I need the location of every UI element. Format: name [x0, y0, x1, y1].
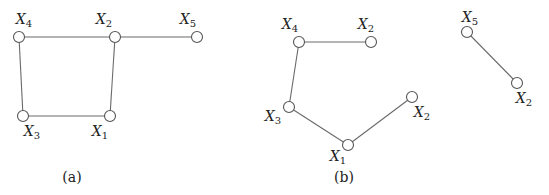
nodes-layer	[14, 27, 523, 151]
edge-b-x3-b-x1	[289, 107, 348, 145]
edge-a-x1-a-x2	[110, 37, 115, 116]
label-b-x4: X4	[281, 16, 298, 34]
node-b-x4	[294, 37, 305, 48]
node-a-x3	[18, 111, 29, 122]
node-b-x2b	[407, 92, 418, 103]
label-b-x2b: X2	[413, 104, 430, 122]
node-a-x2	[110, 32, 121, 43]
edge-b-x4-b-x3	[289, 42, 299, 107]
node-a-x1	[105, 111, 116, 122]
node-b-x2c	[512, 78, 523, 89]
label-b-x1: X1	[329, 148, 346, 166]
label-a-x3: X3	[23, 123, 40, 141]
graph-figure: X4X2X5X3X1X4X2X3X1X2X5X2 (a) (b)	[0, 0, 549, 195]
label-b-x5: X5	[461, 9, 478, 27]
label-a-x5: X5	[179, 11, 196, 29]
node-b-x2a	[366, 37, 377, 48]
edge-b-x5-b-x2c	[467, 32, 517, 83]
label-b-x2a: X2	[357, 16, 374, 34]
label-a-x1: X1	[91, 123, 108, 141]
label-a-x4: X4	[15, 11, 32, 29]
node-a-x4	[14, 32, 25, 43]
node-b-x5	[462, 27, 473, 38]
caption-a: (a)	[62, 169, 81, 185]
node-b-x3	[284, 102, 295, 113]
labels-layer: X4X2X5X3X1X4X2X3X1X2X5X2	[15, 9, 532, 166]
label-b-x2c: X2	[515, 90, 532, 108]
caption-b: (b)	[334, 169, 354, 185]
edge-b-x1-b-x2b	[348, 97, 412, 145]
edge-a-x4-a-x3	[19, 37, 23, 116]
label-a-x2: X2	[95, 11, 112, 29]
node-a-x5	[192, 32, 203, 43]
node-b-x1	[343, 140, 354, 151]
label-b-x3: X3	[264, 108, 281, 126]
